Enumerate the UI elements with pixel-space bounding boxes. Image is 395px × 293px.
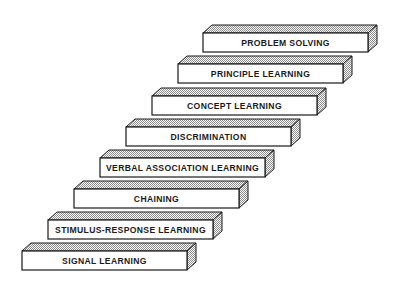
step-label: VERBAL ASSOCIATION LEARNING (106, 163, 259, 173)
step-block: CONCEPT LEARNING (152, 88, 326, 115)
step-label: DISCRIMINATION (171, 132, 247, 142)
step-block: PRINCIPLE LEARNING (178, 56, 352, 83)
step-label: SIGNAL LEARNING (62, 256, 147, 266)
step-label: CONCEPT LEARNING (187, 101, 282, 111)
step-top-face (22, 243, 196, 251)
step-top-face (152, 88, 326, 96)
step-block: DISCRIMINATION (126, 119, 300, 146)
step-label: STIMULUS-RESPONSE LEARNING (55, 225, 206, 235)
step-label: PROBLEM SOLVING (241, 38, 330, 48)
step-label: CHAINING (134, 194, 179, 204)
step-top-face (178, 56, 352, 64)
step-block: PROBLEM SOLVING (203, 25, 377, 52)
step-top-face (203, 25, 377, 33)
steps-group: SIGNAL LEARNINGSTIMULUS-RESPONSE LEARNIN… (22, 25, 377, 270)
learning-hierarchy-staircase: SIGNAL LEARNINGSTIMULUS-RESPONSE LEARNIN… (0, 0, 395, 293)
step-block: VERBAL ASSOCIATION LEARNING (100, 150, 274, 177)
step-block: CHAINING (74, 181, 248, 208)
step-top-face (126, 119, 300, 127)
step-label: PRINCIPLE LEARNING (211, 69, 310, 79)
step-top-face (48, 212, 222, 220)
step-top-face (100, 150, 274, 158)
step-top-face (74, 181, 248, 189)
step-block: STIMULUS-RESPONSE LEARNING (48, 212, 222, 239)
staircase-diagram: SIGNAL LEARNINGSTIMULUS-RESPONSE LEARNIN… (0, 0, 395, 293)
step-block: SIGNAL LEARNING (22, 243, 196, 270)
